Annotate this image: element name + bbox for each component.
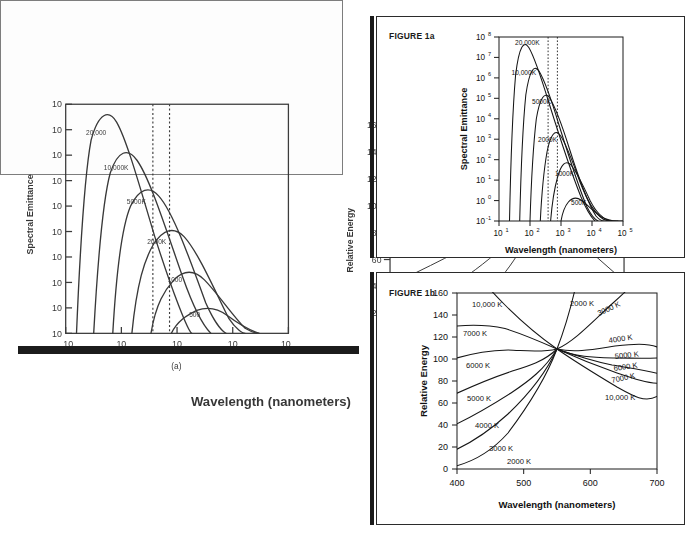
figure-1a-label: FIGURE 1a	[389, 31, 435, 41]
svg-text:600: 600	[583, 478, 598, 488]
chart-1b-xlabel: Wavelength (nanometers)	[499, 499, 616, 510]
svg-text:1: 1	[505, 227, 508, 233]
svg-text:10: 10	[493, 229, 503, 238]
svg-text:5000K: 5000K	[127, 198, 147, 205]
chart-1b-y-ticklabels: 0 20 40 60 80 100 120 140 160	[433, 288, 448, 474]
scan-axis-caption: Wavelength (nanometers)	[191, 394, 351, 409]
svg-text:160: 160	[433, 288, 448, 298]
chart-1a-xlabel: Wavelength (nanometers)	[505, 245, 617, 255]
svg-text:5: 5	[629, 227, 632, 233]
svg-text:5: 5	[488, 92, 491, 98]
scan-subfigure-a: 1010 1010 1010 1010 1010 1010 1010 10	[25, 99, 291, 371]
svg-text:10: 10	[476, 156, 486, 165]
svg-text:10: 10	[52, 99, 62, 109]
svg-text:2000K: 2000K	[538, 136, 558, 143]
scanned-figure-panel: 1010 1010 1010 1010 1010 1010 1010 10	[0, 0, 343, 175]
svg-text:10: 10	[52, 278, 62, 288]
svg-text:(a): (a)	[171, 362, 181, 371]
svg-text:60: 60	[438, 398, 448, 408]
svg-text:10: 10	[586, 229, 596, 238]
svg-text:0: 0	[488, 194, 491, 200]
svg-text:10: 10	[52, 329, 62, 339]
svg-text:10: 10	[52, 201, 62, 211]
svg-text:2: 2	[536, 227, 539, 233]
svg-text:Spectral Emittance: Spectral Emittance	[25, 174, 35, 254]
svg-text:Relative Energy: Relative Energy	[345, 208, 355, 273]
svg-text:500: 500	[189, 311, 200, 318]
svg-text:10: 10	[476, 217, 486, 226]
svg-text:6: 6	[488, 71, 491, 77]
svg-text:10: 10	[476, 33, 486, 42]
svg-text:10: 10	[52, 150, 62, 160]
svg-text:10: 10	[52, 252, 62, 262]
svg-text:400: 400	[449, 478, 464, 488]
svg-text:4000 K: 4000 K	[608, 333, 633, 345]
svg-text:1: 1	[488, 174, 491, 180]
svg-text:10,000K: 10,000K	[512, 69, 537, 76]
svg-text:4: 4	[488, 112, 491, 118]
svg-text:500: 500	[516, 478, 531, 488]
svg-text:100: 100	[433, 354, 448, 364]
svg-text:3000 K: 3000 K	[489, 444, 513, 453]
svg-text:40: 40	[438, 420, 448, 430]
figure-1a-panel: FIGURE 1a 10-1 100 101 102 103 104 105 1	[376, 16, 685, 258]
svg-text:10: 10	[555, 229, 565, 238]
figure-1b-chart: 0 20 40 60 80 100 120 140 160 400500 600…	[377, 273, 684, 524]
svg-text:0: 0	[443, 464, 448, 474]
svg-text:2: 2	[488, 153, 491, 159]
svg-text:10,000K: 10,000K	[104, 164, 129, 171]
svg-text:10: 10	[52, 125, 62, 135]
svg-text:5000K: 5000K	[532, 98, 552, 105]
svg-text:1000K: 1000K	[555, 170, 575, 177]
svg-text:7000 K: 7000 K	[463, 329, 487, 338]
svg-text:20: 20	[438, 442, 448, 452]
svg-text:10,000 K: 10,000 K	[605, 393, 635, 402]
svg-text:10: 10	[476, 197, 486, 206]
svg-text:20,000: 20,000	[86, 129, 107, 136]
svg-text:6000 K: 6000 K	[613, 361, 638, 373]
svg-text:-1: -1	[486, 215, 491, 221]
svg-text:10: 10	[52, 176, 62, 186]
svg-text:10,000 K: 10,000 K	[472, 300, 502, 309]
svg-text:10: 10	[476, 176, 486, 185]
chart-1b-ylabel: Relative Energy	[418, 344, 429, 417]
svg-text:10: 10	[617, 229, 627, 238]
chart-1a-x-ticklabels: 101 102 103 104 105	[493, 227, 632, 239]
svg-text:10: 10	[476, 53, 486, 62]
svg-text:140: 140	[433, 310, 448, 320]
svg-text:3: 3	[488, 133, 491, 139]
svg-text:7000 K: 7000 K	[611, 371, 636, 385]
svg-text:10: 10	[476, 94, 486, 103]
svg-text:80: 80	[438, 376, 448, 386]
chart-1b-plot-area: 0 20 40 60 80 100 120 140 160 400500 600…	[418, 249, 665, 510]
svg-text:10: 10	[52, 227, 62, 237]
svg-text:6000 K: 6000 K	[466, 361, 490, 370]
svg-text:20,000K: 20,000K	[515, 39, 540, 46]
chart-1a-y-ticklabels: 10-1 100 101 102 103 104 105 106 107 108	[476, 31, 491, 227]
svg-text:700: 700	[649, 478, 664, 488]
svg-text:500K: 500K	[571, 199, 587, 206]
svg-text:5000 K: 5000 K	[467, 394, 491, 403]
chart-1a-ylabel: Spectral Emittance	[459, 88, 469, 171]
svg-text:4000 K: 4000 K	[475, 421, 499, 430]
figure-1b-label: FIGURE 1b	[389, 288, 435, 298]
figure-1b-panel: FIGURE 1b 0 20 40 60 80 100 120 140	[376, 272, 685, 525]
chart-1a-plot-area: 10-1 100 101 102 103 104 105 106 107 108…	[459, 31, 633, 256]
chart-1b-x-ticklabels: 400500 600700	[449, 478, 664, 488]
svg-text:10: 10	[524, 229, 534, 238]
svg-text:10: 10	[476, 115, 486, 124]
svg-text:7: 7	[488, 51, 491, 57]
svg-text:5000 K: 5000 K	[614, 350, 639, 361]
svg-text:10: 10	[476, 74, 486, 83]
svg-text:10: 10	[52, 303, 62, 313]
svg-text:4: 4	[598, 227, 601, 233]
svg-text:120: 120	[433, 332, 448, 342]
svg-text:8: 8	[488, 31, 491, 37]
svg-text:3: 3	[567, 227, 570, 233]
svg-text:3000 K: 3000 K	[596, 299, 622, 317]
figure-1a-chart: 10-1 100 101 102 103 104 105 106 107 108…	[377, 17, 684, 257]
svg-text:10: 10	[476, 135, 486, 144]
svg-text:2000K: 2000K	[147, 238, 167, 245]
svg-text:2000 K: 2000 K	[507, 457, 531, 466]
svg-text:1000: 1000	[168, 276, 183, 283]
